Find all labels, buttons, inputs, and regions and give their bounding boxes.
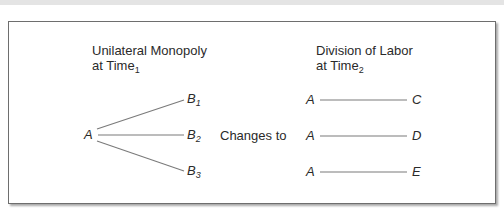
- node-c: C: [412, 93, 421, 107]
- node-b2: B2: [187, 128, 201, 142]
- node-b1: B1: [187, 92, 201, 106]
- transition-label: Changes to: [220, 129, 287, 143]
- node-a-right-1: A: [306, 93, 315, 107]
- node-a-right-2: A: [306, 129, 315, 143]
- edges: [0, 0, 504, 211]
- node-a-left: A: [84, 128, 93, 142]
- node-e: E: [412, 165, 421, 179]
- edge-a-b1: [97, 100, 184, 129]
- edge-a-b3: [97, 141, 184, 171]
- node-d: D: [412, 129, 421, 143]
- node-a-right-3: A: [306, 165, 315, 179]
- node-b3: B3: [187, 164, 201, 178]
